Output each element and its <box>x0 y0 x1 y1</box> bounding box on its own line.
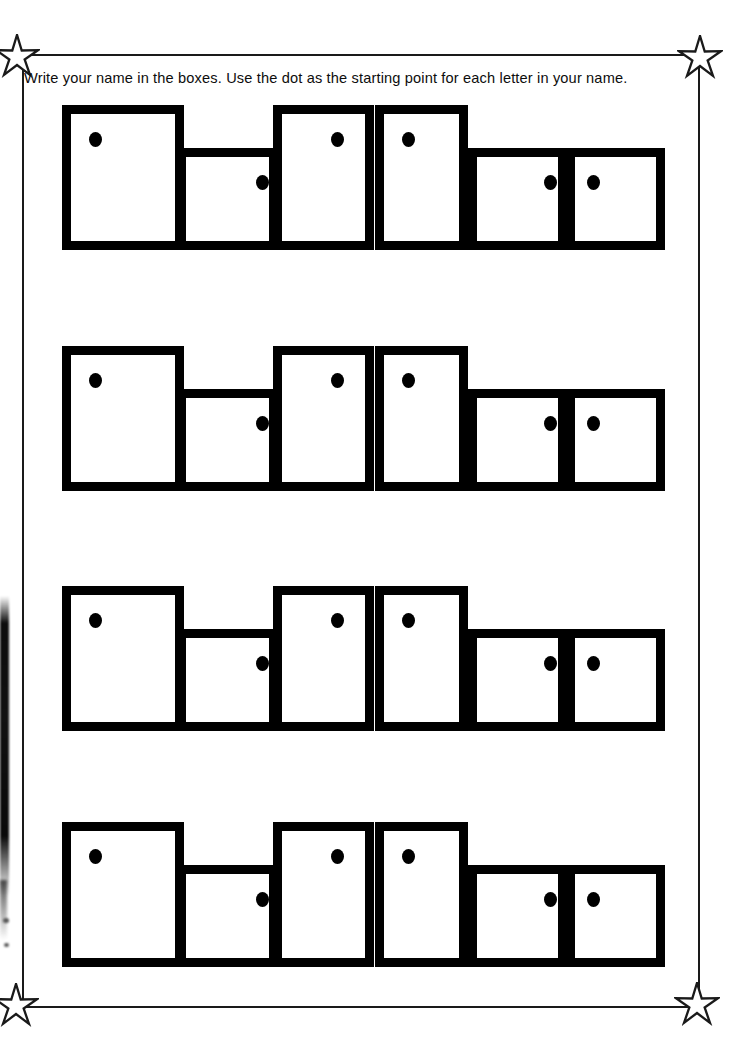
letter-box[interactable] <box>566 865 665 967</box>
letter-box[interactable] <box>177 389 278 491</box>
letter-box[interactable] <box>177 629 278 731</box>
starting-point-dot <box>402 849 415 864</box>
letter-box[interactable] <box>468 389 567 491</box>
letter-box[interactable] <box>177 148 278 250</box>
starting-point-dot <box>402 132 415 147</box>
letter-box[interactable] <box>468 629 567 731</box>
starting-point-dot <box>544 656 557 671</box>
practice-row-3[interactable] <box>0 586 756 736</box>
starting-point-dot <box>256 656 269 671</box>
starting-point-dot <box>544 175 557 190</box>
letter-box[interactable] <box>273 586 374 731</box>
practice-row-1[interactable] <box>0 105 756 255</box>
starting-point-dot <box>587 656 600 671</box>
letter-box[interactable] <box>566 629 665 731</box>
starting-point-dot <box>402 613 415 628</box>
starting-point-dot <box>256 175 269 190</box>
letter-box[interactable] <box>566 389 665 491</box>
letter-box[interactable] <box>375 346 468 491</box>
starting-point-dot <box>89 132 102 147</box>
letter-box[interactable] <box>62 346 184 491</box>
frame-border-bottom <box>18 1006 698 1008</box>
starting-point-dot <box>587 416 600 431</box>
starting-point-dot <box>256 892 269 907</box>
starting-point-dot <box>256 416 269 431</box>
starting-point-dot <box>331 613 344 628</box>
letter-box[interactable] <box>375 822 468 967</box>
practice-row-2[interactable] <box>0 346 756 496</box>
letter-box[interactable] <box>62 822 184 967</box>
starting-point-dot <box>587 175 600 190</box>
letter-box[interactable] <box>375 105 468 250</box>
star-icon <box>0 983 39 1029</box>
letter-box[interactable] <box>273 105 374 250</box>
starting-point-dot <box>402 373 415 388</box>
letter-box[interactable] <box>273 346 374 491</box>
letter-box[interactable] <box>468 148 567 250</box>
starting-point-dot <box>89 373 102 388</box>
starting-point-dot <box>331 849 344 864</box>
starting-point-dot <box>331 373 344 388</box>
frame-border-top <box>22 54 700 56</box>
starting-point-dot <box>544 416 557 431</box>
starting-point-dot <box>331 132 344 147</box>
letter-box[interactable] <box>177 865 278 967</box>
star-icon <box>674 982 720 1028</box>
letter-box[interactable] <box>62 586 184 731</box>
practice-row-4[interactable] <box>0 822 756 972</box>
starting-point-dot <box>89 849 102 864</box>
letter-box[interactable] <box>468 865 567 967</box>
starting-point-dot <box>544 892 557 907</box>
worksheet-page: Write your name in the boxes. Use the do… <box>0 0 756 1059</box>
starting-point-dot <box>89 613 102 628</box>
letter-box[interactable] <box>62 105 184 250</box>
letter-box[interactable] <box>566 148 665 250</box>
letter-box[interactable] <box>375 586 468 731</box>
letter-box[interactable] <box>273 822 374 967</box>
instruction-text: Write your name in the boxes. Use the do… <box>24 70 700 86</box>
starting-point-dot <box>587 892 600 907</box>
